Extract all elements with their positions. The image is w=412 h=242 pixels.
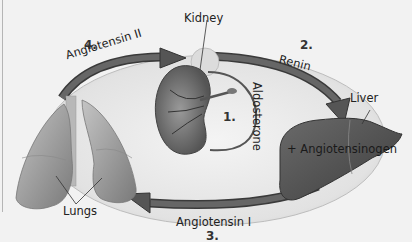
kidney-label: Kidney — [184, 11, 223, 25]
liver-label: Liver — [350, 91, 378, 105]
lungs-label: Lungs — [63, 204, 97, 218]
step-2-number: 2. — [300, 38, 313, 52]
angiotensin-i-label: Angiotensin I — [176, 215, 251, 229]
step-1-number: 1. — [223, 110, 236, 124]
diagram-graphics — [0, 0, 412, 242]
step-3-number: 3. — [206, 229, 219, 242]
raas-diagram: ​ Kidney Liver Lungs 4. Angiotensin II 2… — [0, 0, 412, 242]
angiotensinogen-label: + Angiotensinogen — [287, 142, 397, 156]
aldosterone-label: Aldosterone — [250, 82, 264, 151]
